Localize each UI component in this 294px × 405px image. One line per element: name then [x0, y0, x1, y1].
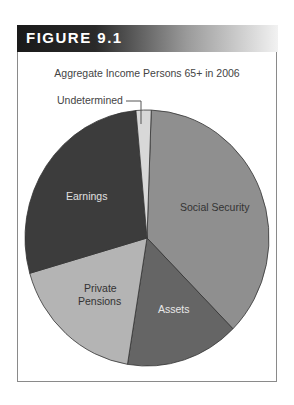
label-assets: Assets	[158, 303, 190, 315]
label-earnings: Earnings	[66, 190, 107, 202]
pie-chart: Undetermined Social Security Assets Priv…	[0, 0, 294, 405]
pie-slices	[25, 110, 269, 366]
label-private-line1: Private	[84, 282, 117, 294]
label-social-security: Social Security	[180, 201, 250, 213]
label-undetermined: Undetermined	[57, 94, 123, 106]
label-private-line2: Pensions	[78, 295, 121, 307]
